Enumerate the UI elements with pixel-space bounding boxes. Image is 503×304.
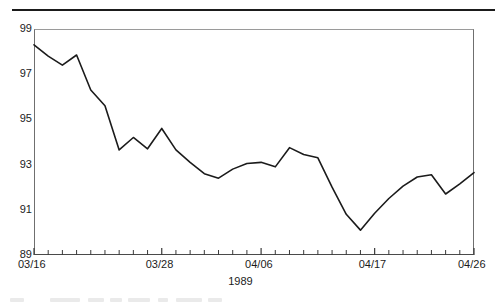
x-axis-tick-labels: 03/1603/2804/0604/1704/26: [0, 259, 503, 275]
y-tick-label: 95: [4, 113, 32, 124]
x-tick-label: 03/28: [146, 259, 174, 270]
x-axis-title-text: 1989: [228, 275, 252, 287]
chart-figure: 999795939189 03/1603/2804/0604/1704/26 1…: [0, 0, 503, 304]
x-tick-label: 04/26: [458, 259, 486, 270]
page-footer-artifact: [8, 296, 238, 304]
y-tick-label: 97: [4, 68, 32, 79]
y-tick-label: 93: [4, 159, 32, 170]
x-tick-label: 04/17: [359, 259, 387, 270]
y-tick-label: 91: [4, 204, 32, 215]
header-rule: [12, 9, 495, 11]
plot-area-frame: [34, 29, 474, 255]
x-tick-label: 03/16: [18, 259, 46, 270]
x-axis-title: 1989: [0, 275, 503, 287]
x-tick-label: 04/06: [245, 259, 273, 270]
y-tick-label: 99: [4, 23, 32, 34]
